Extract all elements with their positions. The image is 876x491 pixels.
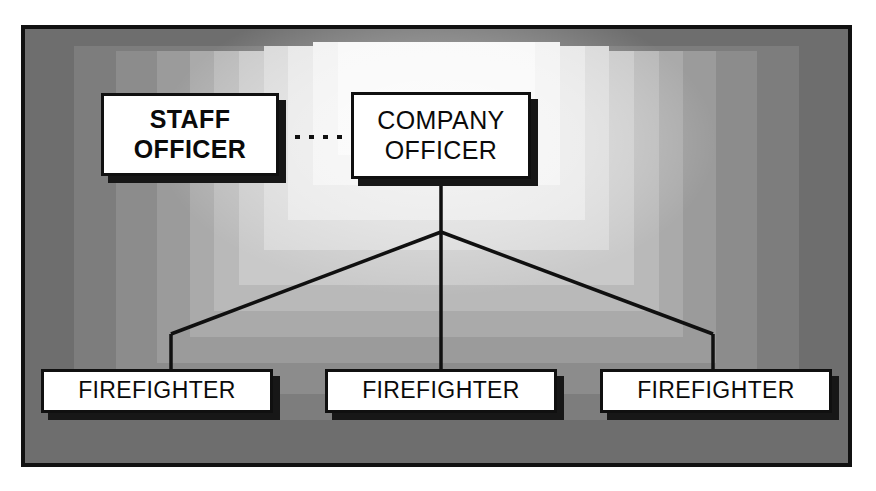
diagram-canvas: STAFF OFFICER COMPANY OFFICER FIREFIGHTE… <box>0 0 876 491</box>
node-firefighter-1-label: FIREFIGHTER <box>78 377 236 404</box>
connector-right-diagonal <box>441 232 713 334</box>
connector-left-diagonal <box>171 232 441 334</box>
node-firefighter-2-label: FIREFIGHTER <box>362 377 520 404</box>
node-firefighter-3-label: FIREFIGHTER <box>637 377 795 404</box>
node-company-officer[interactable]: COMPANY OFFICER <box>351 92 531 179</box>
node-firefighter-1[interactable]: FIREFIGHTER <box>41 369 273 413</box>
node-firefighter-3[interactable]: FIREFIGHTER <box>600 369 832 413</box>
node-company-officer-line2: OFFICER <box>385 136 498 166</box>
node-staff-officer-line1: STAFF <box>150 105 231 135</box>
diagram-frame: STAFF OFFICER COMPANY OFFICER FIREFIGHTE… <box>21 25 852 467</box>
node-firefighter-2[interactable]: FIREFIGHTER <box>325 369 557 413</box>
node-staff-officer[interactable]: STAFF OFFICER <box>101 93 279 176</box>
node-company-officer-line1: COMPANY <box>377 106 504 136</box>
node-staff-officer-line2: OFFICER <box>134 135 247 165</box>
